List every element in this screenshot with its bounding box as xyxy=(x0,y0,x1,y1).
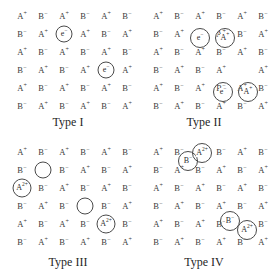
lattice-ion: A+ xyxy=(258,30,268,39)
lattice-ion: B− xyxy=(17,30,26,39)
lattice-ion: A+ xyxy=(174,238,184,247)
electron-trap-label: e− xyxy=(219,88,227,96)
lattice-ion: A+ xyxy=(17,12,27,21)
lattice-ion: A+ xyxy=(17,220,27,229)
lattice-ion: A+ xyxy=(122,238,132,247)
lattice-ion: B− xyxy=(101,238,110,247)
lattice-ion: B− xyxy=(195,66,204,75)
lattice-ion: B− xyxy=(258,84,267,93)
lattice-ion: B− xyxy=(80,12,89,21)
lattice-ion: A+ xyxy=(153,184,163,193)
lattice-ion: B− xyxy=(195,166,204,175)
lattice-type-iii: A+B−A+B−A+B−B−B−A+B−A+B−A+B−A+B−B−A+B−B−… xyxy=(0,138,136,251)
lattice-ion: B− xyxy=(258,220,267,229)
lattice-ion: B− xyxy=(258,184,267,193)
lattice-ion: B− xyxy=(38,12,47,21)
lattice-ion: A+ xyxy=(258,66,268,75)
caption-type-i: Type I xyxy=(0,116,136,128)
lattice-ion: A+ xyxy=(258,238,268,247)
anion-interstitial-label: B− xyxy=(183,157,192,165)
lattice-ion: A+ xyxy=(174,202,184,211)
electron-trap-label: e− xyxy=(102,66,110,74)
lattice-ion: A+ xyxy=(38,102,48,111)
lattice-ion: B− xyxy=(258,12,267,21)
lattice-ion: B− xyxy=(122,148,131,157)
lattice-ion: A+ xyxy=(216,166,226,175)
lattice-ion: A+ xyxy=(17,148,27,157)
lattice-ion: B− xyxy=(174,48,183,57)
lattice-ion: A+ xyxy=(59,184,69,193)
lattice-ion: A+ xyxy=(80,30,90,39)
lattice-ion: A+ xyxy=(122,166,132,175)
lattice-ion: A+ xyxy=(59,148,69,157)
lattice-ion: B− xyxy=(80,184,89,193)
lattice-ion: A+ xyxy=(174,66,184,75)
lattice-ion: A+ xyxy=(153,148,163,157)
lattice-ion: B− xyxy=(122,220,131,229)
lattice-ion: B− xyxy=(122,48,131,57)
lattice-ion: A+ xyxy=(237,12,247,21)
lattice-ion: A+ xyxy=(153,84,163,93)
lattice-ion: A+ xyxy=(38,66,48,75)
lattice-ion: A+ xyxy=(17,84,27,93)
lattice-ion: B− xyxy=(17,202,26,211)
lattice-ion: B− xyxy=(38,184,47,193)
divalent-cation-label: A2+ xyxy=(100,220,113,228)
lattice-ion: A+ xyxy=(216,202,226,211)
panel-type-i: A+B−A+B−A+B−B−A+A+B−A+A+B−A+B−A+B−B−A+B−… xyxy=(0,2,136,139)
lattice-ion: A+ xyxy=(258,202,268,211)
lattice-ion: B− xyxy=(174,84,183,93)
lattice-ion: A+ xyxy=(258,102,268,111)
lattice-ion: B− xyxy=(59,202,68,211)
lattice-ion: A+ xyxy=(101,148,111,157)
lattice-ion: B− xyxy=(17,166,26,175)
lattice-ion: B− xyxy=(17,102,26,111)
divalent-cation-label: A2+ xyxy=(241,226,254,234)
lattice-ion: B− xyxy=(153,30,162,39)
lattice-ion: B− xyxy=(153,66,162,75)
lattice-ion: A+ xyxy=(59,84,69,93)
lattice-ion: B− xyxy=(174,220,183,229)
lattice-ion: B− xyxy=(258,48,267,57)
lattice-ion: B− xyxy=(59,102,68,111)
lattice-type-i: A+B−A+B−A+B−B−A+A+B−A+A+B−A+B−A+B−B−A+B−… xyxy=(0,2,136,115)
lattice-ion: B− xyxy=(258,148,267,157)
lattice-ion: A+ xyxy=(216,102,226,111)
lattice-ion: A+ xyxy=(59,220,69,229)
lattice-ion: B− xyxy=(122,84,131,93)
cation-vacancy-circle xyxy=(77,198,94,215)
lattice-ion: B− xyxy=(101,102,110,111)
lattice-ion: B− xyxy=(101,30,110,39)
lattice-ion: B− xyxy=(38,148,47,157)
lattice-ion: B− xyxy=(122,12,131,21)
interstitial-cation-label: A+ xyxy=(243,88,253,96)
lattice-ion: A+ xyxy=(195,12,205,21)
lattice-ion: A+ xyxy=(59,12,69,21)
lattice-ion: A+ xyxy=(80,166,90,175)
anion-interstitial-label: B− xyxy=(225,217,234,225)
lattice-ion: A+ xyxy=(122,66,132,75)
lattice-ion: A+ xyxy=(195,184,205,193)
lattice-ion: B− xyxy=(80,84,89,93)
lattice-ion: B− xyxy=(153,202,162,211)
panel-type-iii: A+B−A+B−A+B−B−B−A+B−A+B−A+B−A+B−B−A+B−B−… xyxy=(0,138,136,275)
lattice-ion: B− xyxy=(101,166,110,175)
lattice-ion: B− xyxy=(195,102,204,111)
lattice-ion: B− xyxy=(59,238,68,247)
lattice-ion: B− xyxy=(59,166,68,175)
lattice-ion: B− xyxy=(101,202,110,211)
lattice-ion: B− xyxy=(80,48,89,57)
lattice-ion: A+ xyxy=(80,66,90,75)
lattice-ion: B− xyxy=(216,12,225,21)
lattice-ion: A+ xyxy=(237,184,247,193)
lattice-ion: A+ xyxy=(174,30,184,39)
lattice-ion: B− xyxy=(216,184,225,193)
lattice-ion: B− xyxy=(174,184,183,193)
lattice-ion: B− xyxy=(237,202,246,211)
defect-figure: A+B−A+B−A+B−B−A+A+B−A+A+B−A+B−A+B−B−A+B−… xyxy=(0,0,272,275)
lattice-ion: A+ xyxy=(101,84,111,93)
lattice-ion: A+ xyxy=(237,148,247,157)
lattice-ion: A+ xyxy=(216,66,226,75)
lattice-ion: A+ xyxy=(153,48,163,57)
lattice-ion: B− xyxy=(153,166,162,175)
